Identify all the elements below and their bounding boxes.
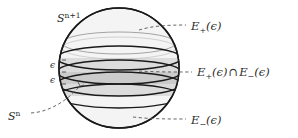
label-epsilon-upper: ϵ <box>50 60 55 70</box>
label-e-plus: E+(ϵ) <box>190 19 222 35</box>
label-epsilon-lower: ϵ <box>50 75 55 85</box>
sphere-diagram-svg: Sn+1 Sn ϵ ϵ E+(ϵ) E+(ϵ)∩E−(ϵ) E−(ϵ) <box>0 0 298 138</box>
label-intersection: E+(ϵ)∩E−(ϵ) <box>196 65 270 81</box>
label-sphere: Sn+1 <box>57 11 80 25</box>
figure-canvas: Sn+1 Sn ϵ ϵ E+(ϵ) E+(ϵ)∩E−(ϵ) E−(ϵ) <box>0 0 298 138</box>
label-equator-sphere: Sn <box>8 109 21 123</box>
label-e-minus: E−(ϵ) <box>190 113 222 129</box>
band-inner-fill <box>59 72 179 84</box>
